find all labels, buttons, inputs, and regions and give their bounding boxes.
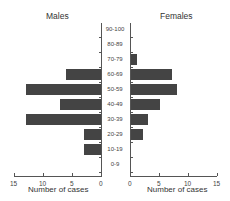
female-bar [131,69,172,80]
x-tick-label: 10 [39,180,46,187]
x-tick [188,173,189,176]
male-bar [84,144,101,155]
female-bar [131,129,143,140]
female-bar [131,114,148,125]
age-label: 60-69 [100,71,130,77]
age-label: 10-19 [100,146,130,152]
left-x-label: Number of cases [28,185,88,194]
y-tick [131,142,133,143]
females-title: Females [160,11,193,21]
y-tick [131,97,133,98]
x-tick-label: 15 [10,180,17,187]
y-tick [99,127,101,128]
y-tick [131,52,133,53]
x-tick [217,173,218,176]
age-label: 40-49 [100,101,130,107]
y-tick [131,67,133,68]
right-x-axis [130,176,217,177]
male-bar [66,69,101,80]
male-bar [26,84,101,95]
y-tick [99,157,101,158]
x-tick [43,173,44,176]
x-tick-label: 0 [128,180,132,187]
age-label: 0-9 [100,161,130,167]
x-tick [72,173,73,176]
female-bar [131,99,160,110]
x-tick-label: 10 [184,180,191,187]
y-tick [99,97,101,98]
age-label: 20-29 [100,131,130,137]
y-tick [99,52,101,53]
x-tick [159,173,160,176]
y-tick [131,172,133,173]
age-label: 80-89 [100,41,130,47]
age-label: 70-79 [100,56,130,62]
female-bar [131,54,137,65]
male-bar [26,114,101,125]
y-tick [99,112,101,113]
y-tick [131,127,133,128]
male-bar [60,99,101,110]
y-tick [99,82,101,83]
x-tick-label: 5 [157,180,161,187]
y-tick [99,67,101,68]
y-tick [99,142,101,143]
male-bar [84,129,101,140]
y-tick [131,112,133,113]
males-title: Males [46,11,69,21]
y-tick [131,37,133,38]
x-tick [14,173,15,176]
x-tick-label: 15 [213,180,220,187]
y-tick [99,37,101,38]
y-tick [131,157,133,158]
age-label: 30-39 [100,116,130,122]
x-tick-label: 0 [99,180,103,187]
left-x-axis [14,176,102,177]
y-tick [131,82,133,83]
x-tick [130,173,131,176]
female-bar [131,84,177,95]
age-label: 50-59 [100,86,130,92]
x-tick-label: 5 [70,180,74,187]
x-tick [101,173,102,176]
age-label: 90-100 [100,26,130,32]
